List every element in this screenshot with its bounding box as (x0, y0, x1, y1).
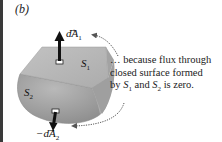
caption-line-2: closed surface formed (110, 67, 222, 80)
caption-line-3: by S1 and S2 is zero. (110, 79, 222, 96)
surface-label-s2: S2 (24, 86, 33, 101)
vector-overarrow-bottom: → (47, 124, 56, 134)
surface-label-s1: S1 (81, 57, 90, 72)
vector-overarrow-top: → (68, 24, 77, 34)
caption: … because flux through closed surface fo… (110, 54, 222, 96)
caption-line-1: … because flux through (110, 54, 222, 67)
arrowhead-top-icon (55, 31, 65, 41)
